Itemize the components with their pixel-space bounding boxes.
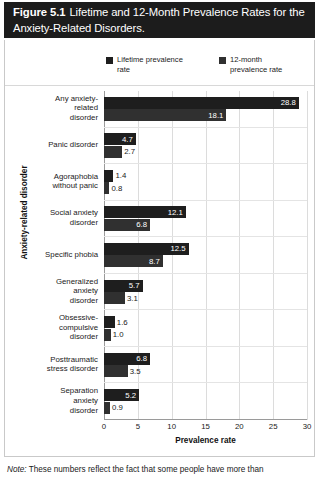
bar-row: 6.8 (104, 219, 307, 231)
bar-group: 1.40.8 (104, 164, 307, 201)
gridline-30 (307, 91, 308, 420)
bar-row: 12.5 (104, 243, 307, 255)
bar-group: 28.818.1 (104, 91, 307, 128)
legend-item-2[interactable]: 12-monthprevalence rate (219, 55, 314, 74)
bar-group: 4.72.7 (104, 128, 307, 165)
bar-value-label: 4.7 (122, 135, 133, 144)
bar-row: 3.5 (104, 365, 307, 377)
figure-title-bar: Figure 5.1Lifetime and 12-Month Prevalen… (4, 2, 315, 38)
bar-value-label: 8.7 (149, 257, 160, 266)
category-label: Specific phobia (10, 250, 98, 260)
figure-number: Figure 5.1 (13, 6, 65, 18)
bar-row: 3.1 (104, 292, 307, 304)
note-text: These numbers reflect the fact that some… (29, 465, 264, 474)
legend-item-1[interactable]: Lifetime prevalencerate (106, 55, 201, 74)
bar[interactable]: 1.6 (104, 316, 115, 328)
bar[interactable]: 0.8 (104, 182, 109, 194)
category-label-column: Any anxiety-relateddisorderPanic disorde… (10, 91, 102, 420)
legend-item-label: Lifetime prevalencerate (117, 55, 183, 74)
bar-value-label: 2.7 (124, 147, 135, 156)
x-tick-label-20: 20 (227, 422, 251, 431)
x-axis-title: Prevalence rate (104, 436, 307, 445)
bar-row: 5.7 (104, 280, 307, 292)
category-label: Posttraumaticstress disorder (10, 355, 98, 374)
legend-swatch-icon (106, 57, 113, 64)
bar-row: 0.9 (104, 402, 307, 414)
bar-row: 18.1 (104, 109, 307, 121)
bar[interactable]: 1.0 (104, 329, 111, 341)
figure-title-line-2: Anxiety-Related Disorders. (13, 21, 305, 37)
legend-swatch-icon (219, 57, 226, 64)
bar-row: 0.8 (104, 182, 307, 194)
bar-row: 1.4 (104, 170, 307, 182)
chart-frame: Lifetime prevalencerate12-monthprevalenc… (4, 40, 315, 457)
bar-group: 5.20.9 (104, 383, 307, 420)
bar-group: 12.58.7 (104, 237, 307, 274)
bar-value-label: 6.8 (136, 354, 147, 363)
x-tick-label-10: 10 (160, 422, 184, 431)
category-label: Social anxietydisorder (10, 208, 98, 227)
bar-row: 1.6 (104, 316, 307, 328)
figure-title-text-1: Lifetime and 12-Month Prevalence Rates f… (69, 6, 304, 18)
bar-row: 8.7 (104, 255, 307, 267)
bar[interactable]: 3.5 (104, 365, 128, 377)
bar-value-label: 3.1 (127, 294, 138, 303)
bar-value-label: 0.8 (111, 184, 122, 193)
bar-value-label: 3.5 (130, 367, 141, 376)
bar-row: 5.2 (104, 389, 307, 401)
x-tick-label-5: 5 (126, 422, 150, 431)
bar[interactable]: 2.7 (104, 146, 122, 158)
x-tick-label-25: 25 (261, 422, 285, 431)
bar[interactable]: 12.5 (104, 243, 189, 255)
x-tick-label-30: 30 (295, 422, 319, 431)
chart-legend: Lifetime prevalencerate12-monthprevalenc… (106, 55, 316, 74)
bar-row: 4.7 (104, 133, 307, 145)
category-label: Any anxiety-relateddisorder (10, 94, 98, 123)
bar-group: 12.16.8 (104, 201, 307, 238)
bar-value-label: 6.8 (136, 220, 147, 229)
note-prefix: Note: (7, 465, 27, 474)
bar-row: 6.8 (104, 353, 307, 365)
bar-group: 6.83.5 (104, 347, 307, 384)
category-label: Agoraphobiawithout panic (10, 172, 98, 191)
bar-value-label: 28.8 (281, 98, 296, 107)
figure-title-line-1: Figure 5.1Lifetime and 12-Month Prevalen… (13, 5, 305, 21)
bar-row: 12.1 (104, 206, 307, 218)
figure-container: Figure 5.1Lifetime and 12-Month Prevalen… (0, 0, 319, 485)
plot-area: 28.818.14.72.71.40.812.16.812.58.75.73.1… (104, 91, 307, 420)
bar-row: 2.7 (104, 146, 307, 158)
bar[interactable]: 4.7 (104, 133, 136, 145)
bar-value-label: 12.5 (170, 244, 185, 253)
category-label: Obsessive-compulsivedisorder (10, 313, 98, 342)
bar[interactable]: 6.8 (104, 353, 150, 365)
bar-group: 1.61.0 (104, 310, 307, 347)
bar-value-label: 1.0 (113, 330, 124, 339)
x-axis-line (104, 419, 307, 420)
bar-value-label: 1.4 (115, 171, 126, 180)
category-label: Separationanxietydisorder (10, 386, 98, 415)
bar[interactable]: 18.1 (104, 109, 226, 121)
bar[interactable]: 1.4 (104, 170, 113, 182)
bar-value-label: 0.9 (112, 403, 123, 412)
bar[interactable]: 12.1 (104, 206, 186, 218)
bar[interactable]: 5.2 (104, 389, 139, 401)
x-tick-label-0: 0 (92, 422, 116, 431)
x-tick-label-15: 15 (194, 422, 218, 431)
legend-item-label: 12-monthprevalence rate (230, 55, 282, 74)
bar[interactable]: 3.1 (104, 292, 125, 304)
bar[interactable]: 0.9 (104, 402, 110, 414)
bar-value-label: 12.1 (168, 208, 183, 217)
bar[interactable]: 8.7 (104, 255, 163, 267)
category-label: Generalizedanxietydisorder (10, 277, 98, 306)
figure-note: Note: These numbers reflect the fact tha… (7, 464, 312, 475)
bar-value-label: 1.6 (117, 318, 128, 327)
bar-groups: 28.818.14.72.71.40.812.16.812.58.75.73.1… (104, 91, 307, 420)
bar[interactable]: 28.8 (104, 97, 299, 109)
bar-row: 1.0 (104, 329, 307, 341)
bar-group: 5.73.1 (104, 274, 307, 311)
x-axis-ticks: 051015202530 (104, 422, 307, 434)
bar[interactable]: 5.7 (104, 280, 143, 292)
bar[interactable]: 6.8 (104, 219, 150, 231)
category-label: Panic disorder (10, 140, 98, 150)
bar-row: 28.8 (104, 97, 307, 109)
